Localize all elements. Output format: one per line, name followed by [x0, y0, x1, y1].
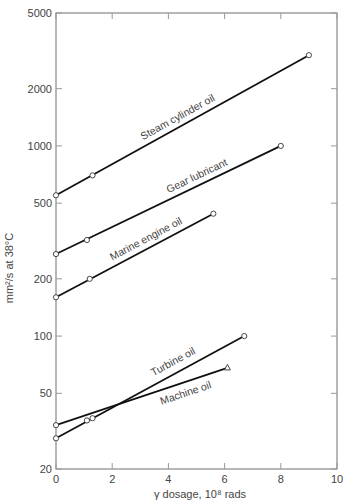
circle-marker-icon — [306, 53, 311, 58]
series-turbine-oil: Turbine oil — [53, 333, 246, 440]
circle-marker-icon — [278, 143, 283, 148]
circle-marker-icon — [87, 276, 92, 281]
circle-marker-icon — [53, 423, 58, 428]
circle-marker-icon — [211, 211, 216, 216]
y-tick-label: 5000 — [28, 7, 52, 19]
plot-axes: 20501002005001000200050000246810 — [28, 7, 344, 485]
x-tick-label: 0 — [53, 473, 59, 485]
circle-marker-icon — [53, 436, 58, 441]
x-tick-label: 8 — [278, 473, 284, 485]
circle-marker-icon — [90, 416, 95, 421]
y-tick-label: 2000 — [28, 83, 52, 95]
series-line — [56, 336, 244, 438]
circle-marker-icon — [53, 193, 58, 198]
y-tick-label: 200 — [34, 273, 52, 285]
series-line — [56, 214, 213, 298]
circle-marker-icon — [53, 251, 58, 256]
y-tick-label: 100 — [34, 330, 52, 342]
series-lines: Steam cylinder oilGear lubricantMarine e… — [53, 53, 311, 441]
x-tick-label: 6 — [222, 473, 228, 485]
y-tick-label: 1000 — [28, 140, 52, 152]
y-tick-label: 500 — [34, 197, 52, 209]
series-marine-engine-oil: Marine engine oil — [53, 211, 216, 300]
series-label: Steam cylinder oil — [138, 91, 216, 142]
x-tick-label: 10 — [331, 473, 343, 485]
series-label: Marine engine oil — [108, 214, 184, 262]
series-line — [56, 368, 227, 425]
triangle-marker-icon — [224, 364, 230, 370]
x-tick-label: 4 — [165, 473, 171, 485]
y-tick-label: 50 — [40, 387, 52, 399]
x-axis-label: γ dosage, 10⁸ rads — [154, 488, 247, 500]
circle-marker-icon — [53, 295, 58, 300]
x-tick-label: 2 — [109, 473, 115, 485]
series-label: Turbine oil — [149, 344, 197, 378]
circle-marker-icon — [84, 418, 89, 423]
circle-marker-icon — [90, 173, 95, 178]
series-gear-lubricant: Gear lubricant — [53, 143, 283, 256]
series-machine-oil: Machine oil — [53, 364, 230, 427]
y-tick-label: 20 — [40, 463, 52, 475]
circle-marker-icon — [84, 237, 89, 242]
circle-marker-icon — [242, 333, 247, 338]
y-axis-label: mm²/s at 38°C — [3, 233, 15, 303]
plot-frame — [56, 13, 337, 469]
viscosity-chart: 20501002005001000200050000246810 Steam c… — [0, 0, 347, 504]
